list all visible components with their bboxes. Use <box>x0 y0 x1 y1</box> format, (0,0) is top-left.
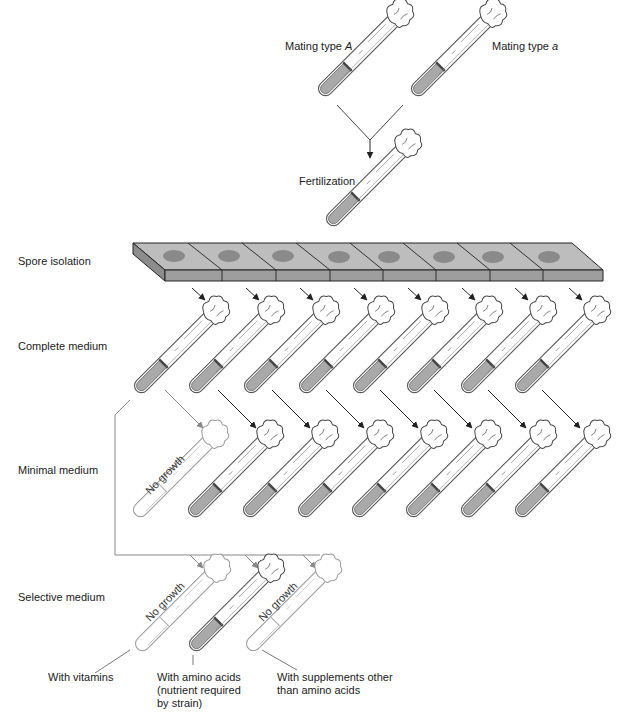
label-complete-medium: Complete medium <box>18 340 107 352</box>
minimal-tube-8 <box>508 415 616 523</box>
caption-supplements-line2: than amino acids <box>277 684 361 696</box>
complete-tube-7 <box>454 291 562 399</box>
spore-8 <box>538 251 560 263</box>
complete-tube-1 <box>127 291 235 399</box>
arrows-complete-to-minimal <box>165 390 580 428</box>
label-mating-type-A: Mating type A <box>285 40 352 52</box>
minimal-tube-1-no-growth <box>126 415 234 523</box>
label-minimal-medium: Minimal medium <box>18 464 98 476</box>
complete-tube-4 <box>292 291 400 399</box>
complete-tube-8 <box>508 291 616 399</box>
caption-with-vitamins: With vitamins <box>48 671 114 683</box>
label-mating-type-a: Mating type a <box>492 40 558 52</box>
label-spore-isolation: Spore isolation <box>18 255 91 267</box>
caption-amino-line3: by strain) <box>157 697 202 709</box>
minimal-tube-2 <box>181 415 289 523</box>
caption-amino-line2: (nutrient required <box>157 684 241 696</box>
minimal-tube-7 <box>454 415 562 523</box>
complete-tube-3 <box>237 291 345 399</box>
spore-7 <box>482 251 504 263</box>
caption-amino-line1: With amino acids <box>157 671 241 683</box>
complete-tube-2 <box>182 291 290 399</box>
minimal-tube-6 <box>399 415 507 523</box>
spore-4 <box>328 251 350 263</box>
spore-1 <box>163 250 185 262</box>
spore-5 <box>378 251 400 263</box>
minimal-tube-5 <box>345 415 453 523</box>
label-selective-medium: Selective medium <box>18 591 105 603</box>
caption-supplements-line1: With supplements other <box>277 671 393 683</box>
minimal-tube-3 <box>236 415 344 523</box>
selective-tube-vitamins <box>128 549 236 657</box>
caption-leaders <box>95 650 297 673</box>
complete-tube-5 <box>346 291 454 399</box>
complete-medium-tubes <box>127 291 616 399</box>
complete-tube-6 <box>400 291 508 399</box>
minimal-tube-4 <box>291 415 399 523</box>
spore-tray <box>133 243 603 281</box>
spore-2 <box>218 250 240 262</box>
label-fertilization: Fertilization <box>299 175 355 187</box>
spore-3 <box>272 250 294 262</box>
spore-6 <box>433 251 455 263</box>
diagram-canvas: Mating type A Mating type a Fertilizatio… <box>0 0 624 725</box>
minimal-medium-tubes <box>126 415 616 523</box>
